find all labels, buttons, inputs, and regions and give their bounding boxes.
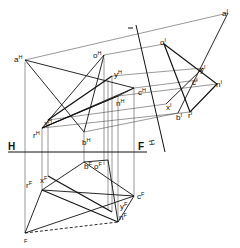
label-yI: yI <box>200 64 206 74</box>
label-rH: rH <box>33 130 40 140</box>
label-oH: oH <box>93 50 101 60</box>
label-rI: rI <box>188 110 193 120</box>
fold-label-h-side: H <box>147 139 157 146</box>
label-nI: nI <box>216 79 222 89</box>
fold-label-f: F <box>138 141 144 152</box>
label-oF: oF <box>94 161 102 171</box>
label-aI: aI <box>222 8 228 18</box>
label-bI: bI <box>176 112 182 122</box>
label-xI: xI <box>166 102 172 112</box>
label-yF: yF <box>120 201 128 211</box>
label-aF: F <box>24 238 28 244</box>
label-nH: nH <box>116 98 124 108</box>
labels-i-view: aI oI yI cI nI xI bI rI <box>160 8 228 122</box>
projection-diagram: aH oH yH cH nH xH rH bH bF oF xF rF cF y… <box>0 0 240 248</box>
label-aH: aH <box>14 54 22 64</box>
projector-lines <box>25 13 228 233</box>
label-cH: cH <box>138 87 146 97</box>
diagram-canvas: aH oH yH cH nH xH rH bH bF oF xF rF cF y… <box>0 0 240 248</box>
label-cF: cF <box>137 191 145 201</box>
label-cI: cI <box>192 77 198 87</box>
fold-label-h: H <box>8 141 15 152</box>
view-i <box>164 13 228 113</box>
label-nF: nF <box>119 212 127 222</box>
view-h <box>25 55 134 132</box>
label-rF: rF <box>26 180 33 190</box>
label-bH: bH <box>82 137 90 147</box>
label-yH: yH <box>114 69 122 79</box>
label-xF: xF <box>40 175 48 185</box>
label-bF: bF <box>84 161 92 171</box>
view-f <box>25 160 134 233</box>
